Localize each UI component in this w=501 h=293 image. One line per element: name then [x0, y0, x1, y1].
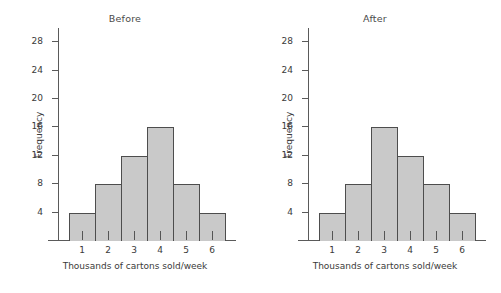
- x-tick-cell: [69, 231, 95, 240]
- x-tick-cell: [371, 231, 397, 240]
- x-tick-label-6: 6: [449, 245, 475, 255]
- chart-title-before: Before: [0, 13, 250, 24]
- y-tick-label-16: 16: [32, 121, 43, 131]
- y-tick-8: 8: [52, 183, 59, 184]
- bar-4: [397, 156, 424, 241]
- x-tick-6: [462, 231, 463, 240]
- x-tick-1: [82, 231, 83, 240]
- plot-area-after: Frequency 4 8 12 16 20 24 28: [308, 28, 478, 241]
- x-tick-cell: [199, 231, 225, 240]
- bar-series-before: [69, 28, 225, 241]
- x-tick-labels: 1 2 3 4 5 6: [69, 245, 225, 255]
- bar-series-after: [319, 28, 475, 241]
- y-tick-16: 16: [302, 126, 309, 127]
- y-tick-label-28: 28: [282, 36, 293, 46]
- x-tick-6: [212, 231, 213, 240]
- bar-3: [121, 156, 148, 241]
- x-axis-label: Thousands of cartons sold/week: [10, 261, 260, 271]
- x-tick-label-5: 5: [173, 245, 199, 255]
- chart-panel-after: After Frequency 4 8 12 16 20 24 28: [250, 0, 500, 293]
- x-tick-marks: [69, 231, 225, 240]
- histogram-figure: Before Frequency 4 8 12 16 20 24 28: [0, 0, 501, 293]
- x-tick-cell: [397, 231, 423, 240]
- plot-area-before: Frequency 4 8 12 16 20 24 28: [58, 28, 228, 241]
- x-tick-2: [358, 231, 359, 240]
- y-tick-label-8: 8: [37, 178, 43, 188]
- y-tick-28: 28: [302, 41, 309, 42]
- y-tick-4: 4: [52, 212, 59, 213]
- y-tick-label-16: 16: [282, 121, 293, 131]
- y-tick-label-24: 24: [282, 65, 293, 75]
- y-tick-24: 24: [302, 70, 309, 71]
- x-tick-5: [186, 231, 187, 240]
- y-axis-line: [308, 28, 309, 241]
- y-axis-line: [58, 28, 59, 241]
- y-tick-8: 8: [302, 183, 309, 184]
- x-tick-cell: [121, 231, 147, 240]
- y-tick-label-8: 8: [287, 178, 293, 188]
- x-tick-cell: [449, 231, 475, 240]
- x-tick-label-1: 1: [69, 245, 95, 255]
- y-tick-label-20: 20: [282, 93, 293, 103]
- x-tick-marks: [319, 231, 475, 240]
- y-tick-label-24: 24: [32, 65, 43, 75]
- y-tick-24: 24: [52, 70, 59, 71]
- x-tick-1: [332, 231, 333, 240]
- x-tick-cell: [173, 231, 199, 240]
- y-tick-28: 28: [52, 41, 59, 42]
- y-tick-label-28: 28: [32, 36, 43, 46]
- bar-3: [371, 127, 398, 241]
- x-tick-cell: [319, 231, 345, 240]
- x-tick-label-3: 3: [371, 245, 397, 255]
- x-tick-labels: 1 2 3 4 5 6: [319, 245, 475, 255]
- y-tick-label-12: 12: [282, 150, 293, 160]
- x-tick-2: [108, 231, 109, 240]
- x-tick-cell: [95, 231, 121, 240]
- x-tick-label-1: 1: [319, 245, 345, 255]
- x-tick-cell: [345, 231, 371, 240]
- y-tick-label-12: 12: [32, 150, 43, 160]
- y-tick-16: 16: [52, 126, 59, 127]
- x-tick-label-2: 2: [95, 245, 121, 255]
- x-tick-cell: [147, 231, 173, 240]
- x-tick-5: [436, 231, 437, 240]
- x-tick-label-5: 5: [423, 245, 449, 255]
- chart-panel-before: Before Frequency 4 8 12 16 20 24 28: [0, 0, 250, 293]
- y-tick-12: 12: [302, 155, 309, 156]
- x-tick-label-4: 4: [397, 245, 423, 255]
- x-tick-3: [134, 231, 135, 240]
- y-tick-12: 12: [52, 155, 59, 156]
- x-axis-label: Thousands of cartons sold/week: [260, 261, 501, 271]
- x-tick-label-4: 4: [147, 245, 173, 255]
- y-tick-4: 4: [302, 212, 309, 213]
- y-tick-label-4: 4: [37, 207, 43, 217]
- chart-title-after: After: [250, 13, 500, 24]
- x-tick-cell: [423, 231, 449, 240]
- y-tick-20: 20: [302, 98, 309, 99]
- y-tick-label-20: 20: [32, 93, 43, 103]
- bar-4: [147, 127, 174, 241]
- y-tick-label-4: 4: [287, 207, 293, 217]
- y-tick-20: 20: [52, 98, 59, 99]
- x-tick-3: [384, 231, 385, 240]
- x-tick-4: [410, 231, 411, 240]
- x-tick-label-6: 6: [199, 245, 225, 255]
- x-tick-label-2: 2: [345, 245, 371, 255]
- x-tick-4: [160, 231, 161, 240]
- x-tick-label-3: 3: [121, 245, 147, 255]
